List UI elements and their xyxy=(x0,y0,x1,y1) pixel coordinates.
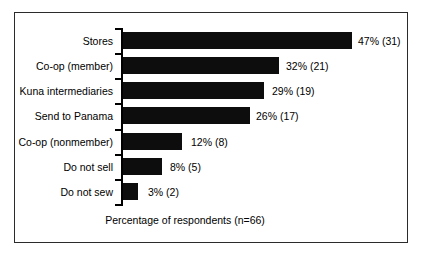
bar-row: Do not sew 3% (2) xyxy=(15,180,409,204)
bar-row: Co-op (nonmember) 12% (8) xyxy=(15,130,409,154)
bar-value-label: 47% (31) xyxy=(358,29,401,53)
bar xyxy=(123,57,279,74)
x-axis-caption: Percentage of respondents (n=66) xyxy=(15,214,355,226)
bar xyxy=(123,183,138,200)
bar-value-label: 8% (5) xyxy=(170,155,201,179)
bar-value-label: 12% (8) xyxy=(191,130,228,154)
bar-value-label: 26% (17) xyxy=(256,104,299,128)
plot-area: Stores 47% (31) Co-op (member) 32% (21) … xyxy=(15,13,409,244)
category-label: Do not sell xyxy=(15,155,113,179)
bar xyxy=(123,158,162,175)
bar xyxy=(123,107,250,124)
category-label: Stores xyxy=(15,29,113,53)
axis-tick xyxy=(115,204,122,206)
bar-value-label: 3% (2) xyxy=(148,180,179,204)
bar xyxy=(123,32,352,49)
bar-value-label: 29% (19) xyxy=(272,79,315,103)
bar-row: Co-op (member) 32% (21) xyxy=(15,54,409,78)
bar-row: Stores 47% (31) xyxy=(15,29,409,53)
bar-row: Kuna intermediaries 29% (19) xyxy=(15,79,409,103)
category-label: Co-op (member) xyxy=(15,54,113,78)
bar xyxy=(123,133,182,150)
category-label: Co-op (nonmember) xyxy=(15,130,113,154)
bar-row: Send to Panama 26% (17) xyxy=(15,104,409,128)
bar-row: Do not sell 8% (5) xyxy=(15,155,409,179)
category-label: Send to Panama xyxy=(15,104,113,128)
figure: Stores 47% (31) Co-op (member) 32% (21) … xyxy=(0,0,422,260)
category-label: Kuna intermediaries xyxy=(15,79,113,103)
category-label: Do not sew xyxy=(15,180,113,204)
chart-frame: Stores 47% (31) Co-op (member) 32% (21) … xyxy=(14,12,408,243)
bar-value-label: 32% (21) xyxy=(286,54,329,78)
bar xyxy=(123,82,264,99)
